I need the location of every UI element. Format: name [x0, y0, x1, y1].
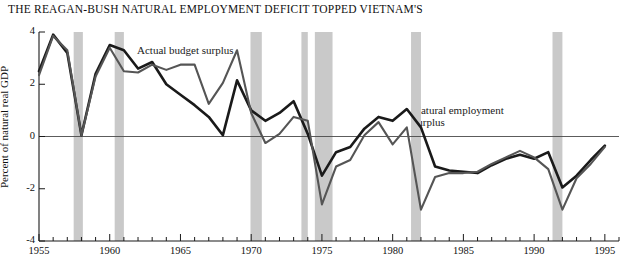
plot-area — [39, 32, 619, 241]
x-tick-label: 1955 — [19, 245, 59, 256]
y-tick-label: -4 — [9, 234, 35, 245]
x-tick-label: 1995 — [585, 245, 621, 256]
x-tick-label: 1960 — [90, 245, 130, 256]
x-tick-label: 1985 — [443, 245, 483, 256]
y-tick-label: 0 — [9, 130, 35, 141]
y-axis-label-text: Percent of natural real GDP — [0, 52, 10, 202]
y-tick-label: 2 — [9, 77, 35, 88]
chart-svg — [39, 32, 619, 241]
chart-title: THE REAGAN-BUSH NATURAL EMPLOYMENT DEFIC… — [8, 3, 423, 15]
x-tick-label: 1965 — [160, 245, 200, 256]
x-tick-label: 1990 — [514, 245, 554, 256]
x-tick-label: 1970 — [231, 245, 271, 256]
x-tick-label: 1980 — [373, 245, 413, 256]
x-tick-label: 1975 — [302, 245, 342, 256]
y-tick-label: 4 — [9, 25, 35, 36]
figure-container: THE REAGAN-BUSH NATURAL EMPLOYMENT DEFIC… — [0, 0, 621, 266]
y-tick-label: -2 — [9, 182, 35, 193]
